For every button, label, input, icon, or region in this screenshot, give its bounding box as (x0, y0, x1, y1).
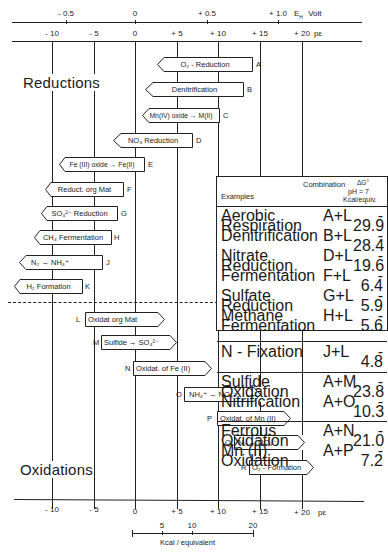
oxidation-letter: M (93, 338, 99, 347)
eh-tick (135, 20, 136, 24)
reduction-box-e: Fe (III) oxide → Fe(II) (59, 157, 145, 172)
delta-g-header-label: ΔG° (357, 179, 369, 186)
reduction-box-d: NO₃ Reduction (113, 133, 193, 148)
pe-tick-label: + 5 (171, 29, 182, 38)
examples-header-label: Examples (221, 192, 254, 201)
kcal-tick-label: 10 (188, 521, 197, 530)
oxidation-box-r: O₂ - Formation (249, 460, 314, 475)
eh-unit-label: EH Volt (294, 9, 322, 20)
pe-tick-label: - 10 (45, 29, 59, 38)
eh-tick (66, 20, 67, 24)
reduction-label: CH₄ Fermentation (34, 233, 112, 242)
pe-tick-label: + 5 (171, 507, 182, 516)
oxidation-label: N₂ → NO₃⁻ (234, 438, 305, 447)
reduction-label: Denitrification (145, 85, 244, 94)
eh-tick (278, 20, 279, 24)
oxidation-label: Sulfide → SO₄²⁻ (101, 338, 177, 347)
example-combination: A+O (323, 397, 353, 417)
example-value: - 5.6 (353, 311, 383, 331)
examples-header: Examples Combination ΔG° pH = 7 Kcal/equ… (217, 177, 387, 207)
kcal-tick-label: 5 (160, 521, 164, 530)
oxidations-title: Oxidations (19, 461, 94, 478)
reduction-letter: A (256, 60, 261, 69)
pe-tick-label: - 5 (89, 29, 98, 38)
examples-group-respiration: Aerobic RespirationA+L- 29.9 Denitrifica… (217, 207, 387, 342)
reduction-label: Fe (III) oxide → Fe(II) (59, 161, 145, 168)
oxidation-label: Oxidat. of Mn (II) (217, 414, 291, 423)
eh-tick-label: - 0.5 (58, 9, 74, 18)
example-name: N - Fixation (221, 347, 323, 367)
oxidation-label: NH₄⁺ → NO₃⁻ (184, 390, 261, 399)
reduction-label: NO₃ Reduction (113, 136, 193, 145)
reduction-letter: H (114, 233, 119, 242)
pe-tick-label: 0 (133, 29, 137, 38)
pe-tick-label: - 10 (45, 505, 59, 514)
reduction-box-b: Denitrification (145, 82, 244, 97)
reduction-label: SO₄²⁻ Reduction (41, 209, 118, 218)
pe-tick-label: - 5 (89, 505, 98, 514)
example-combination: H+L (323, 311, 353, 331)
ph-header-label: pH = 7 (348, 188, 369, 195)
unit-header-label: Kcal/equiv. (343, 196, 377, 203)
reduction-box-a: O₂ - Reduction (157, 57, 253, 72)
eh-tick-label: + 0.5 (198, 9, 216, 18)
table-row: Methane FermentationH+L- 5.6 (221, 311, 383, 331)
reduction-label: Mn(IV) oxide → M(II) (142, 112, 220, 119)
example-name: Methane Fermentation (221, 311, 323, 331)
kcal-scale-left-end (132, 530, 133, 537)
eh-axis-line (12, 22, 362, 23)
eh-tick (207, 20, 208, 24)
pe-tick-label: + 10 (210, 507, 226, 516)
kcal-scale-tick (162, 531, 163, 535)
kcal-scale-tick (192, 531, 193, 535)
reduction-label: H₂ Formation (14, 282, 83, 291)
pe-tick-label: + 20 (294, 508, 310, 517)
oxidation-letter: P (207, 414, 212, 423)
reduction-letter: C (223, 111, 228, 120)
kcal-scale-right-end (253, 530, 254, 537)
pe-gridline-0 (135, 41, 136, 509)
reduction-letter: F (127, 185, 132, 194)
pe-gridline-minus5 (94, 41, 95, 509)
oxidation-box-l: Oxidat org Mat (85, 312, 165, 327)
kcal-tick-label: 20 (249, 521, 258, 530)
pe-tick-label: 0 (133, 507, 137, 516)
reduction-label: N₂ → NH₄⁺ (19, 258, 103, 267)
pe-tick-label: + 10 (210, 29, 226, 38)
kcal-scale-label: Kcal / equivalent (160, 538, 215, 547)
reduction-box-k: H₂ Formation (14, 279, 83, 294)
oxidation-label: O₂ - Formation (249, 463, 314, 472)
pe-axis-top-line (12, 41, 362, 42)
example-combination: J+L (323, 347, 353, 367)
reduction-box-h: CH₄ Fermentation (34, 230, 112, 245)
oxidation-label: Oxidat org Mat (85, 315, 165, 324)
example-value: - 7.2 (353, 446, 383, 466)
reduction-oxidation-divider (8, 302, 218, 303)
eh-tick-label: + 1.0 (269, 9, 287, 18)
reduction-letter: B (247, 85, 252, 94)
pe-tick-label: + 15 (252, 507, 268, 516)
reduction-letter: G (121, 209, 127, 218)
reduction-box-f: Reduct. org Mat (45, 182, 124, 197)
reduction-box-g: SO₄²⁻ Reduction (41, 206, 118, 221)
oxidation-label: Oxidat. of Fe (II) (133, 364, 212, 373)
pe-tick-label: + 20 (294, 29, 310, 38)
oxidation-letter: L (76, 315, 80, 324)
eh-tick-label: 0 (133, 9, 137, 18)
pe-gridline-minus10 (52, 41, 53, 509)
reduction-letter: J (106, 258, 110, 267)
oxidation-box-n: Oxidat. of Fe (II) (133, 361, 212, 376)
pe-unit-label: pε (318, 508, 326, 517)
reduction-letter: K (85, 282, 90, 291)
table-row: N - FixationJ+L- 4.8 (221, 347, 383, 367)
example-value: - 4.8 (353, 347, 383, 367)
reduction-box-j: N₂ → NH₄⁺ (19, 255, 103, 270)
example-combination: A+P (323, 446, 353, 466)
pe-axis-bottom-line (14, 499, 364, 502)
pe-unit-label: pε (314, 29, 322, 38)
oxidation-box-m: Sulfide → SO₄²⁻ (101, 335, 177, 350)
combination-header-label: Combination (303, 180, 345, 189)
reduction-label: Reduct. org Mat (45, 185, 124, 194)
examples-group-fixation: N - FixationJ+L- 4.8 (217, 342, 387, 373)
reduction-letter: E (148, 160, 153, 169)
